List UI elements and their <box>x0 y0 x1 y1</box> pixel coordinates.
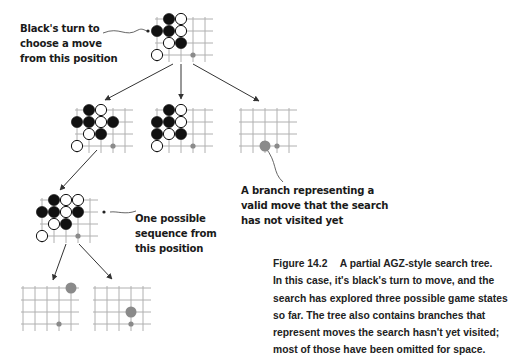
annotation-line: One possible <box>135 211 217 226</box>
white-stone <box>175 25 186 36</box>
black-stone <box>83 104 94 115</box>
white-stone <box>48 218 59 229</box>
go-board-grandchild <box>36 194 98 243</box>
unvisited-branch-annotation: A branch representing a valid move that … <box>241 183 388 228</box>
white-stone <box>95 116 106 127</box>
tree-edge-arrow <box>60 150 97 190</box>
annotation-line: has not visited yet <box>241 213 388 228</box>
figure-number: Figure 14.2 <box>273 258 327 269</box>
callout-leader-line <box>265 147 283 182</box>
annotation-line: sequence from <box>135 226 217 241</box>
black-stone <box>151 116 162 127</box>
go-board-leaf-right <box>93 286 151 331</box>
candidate-move-marker <box>190 52 195 57</box>
black-stone <box>71 116 82 127</box>
candidate-move-marker <box>128 321 133 326</box>
annotation-line: valid move that the search <box>241 198 388 213</box>
caption-line: represent moves the search hasn't yet vi… <box>273 324 508 341</box>
sequence-annotation: One possible sequence from this position <box>135 211 217 256</box>
white-stone <box>36 230 47 241</box>
go-board-child-middle <box>151 104 213 153</box>
tree-edge-arrow <box>79 244 112 279</box>
black-stone <box>48 206 59 217</box>
white-stone <box>72 194 83 205</box>
go-board-root <box>151 13 213 62</box>
white-stone <box>60 194 71 205</box>
white-stone <box>151 140 162 151</box>
white-stone <box>95 104 106 115</box>
candidate-move-marker-large <box>126 307 137 318</box>
black-stone <box>107 116 118 127</box>
annotation-line: Black's turn to <box>20 21 117 36</box>
candidate-move-marker <box>110 143 115 148</box>
candidate-move-marker-large <box>66 283 77 294</box>
black-stone <box>95 128 106 139</box>
black-stone <box>175 128 186 139</box>
candidate-move-marker <box>56 321 61 326</box>
callout-arrowhead-icon <box>146 29 149 32</box>
black-stone <box>151 128 162 139</box>
go-board-child-left <box>71 104 133 153</box>
figure-title: A partial AGZ-style search tree. <box>340 258 493 269</box>
caption-line: most of those have been omitted for spac… <box>273 341 508 357</box>
caption-line: so far. The tree also contains branches … <box>273 307 508 324</box>
white-stone <box>163 37 174 48</box>
caption-line: search has explored three possible game … <box>273 290 508 307</box>
candidate-move-marker <box>75 233 80 238</box>
white-stone <box>175 116 186 127</box>
white-stone <box>163 128 174 139</box>
white-stone <box>71 140 82 151</box>
figure-caption: Figure 14.2 A partial AGZ-style search t… <box>273 255 508 357</box>
black-stone <box>163 25 174 36</box>
caption-title-line: Figure 14.2 A partial AGZ-style search t… <box>273 255 508 272</box>
black-stone <box>48 194 59 205</box>
callout-leader-line <box>110 211 136 213</box>
tree-edge-arrow <box>53 244 66 280</box>
annotation-line: this position <box>135 241 217 256</box>
annotation-line: A branch representing a <box>241 183 388 198</box>
black-stone <box>163 13 174 24</box>
caption-line: In this case, it's black's turn to move,… <box>273 272 508 289</box>
candidate-move-marker <box>274 143 279 148</box>
white-stone <box>60 206 71 217</box>
white-stone <box>151 49 162 60</box>
tree-edge-arrow <box>105 64 173 100</box>
tree-edge-arrow <box>193 64 259 101</box>
candidate-move-marker <box>190 143 195 148</box>
black-stone <box>163 104 174 115</box>
candidate-move-marker-large <box>260 141 271 152</box>
black-stone <box>72 206 83 217</box>
black-stone <box>151 25 162 36</box>
root-annotation: Black's turn to choose a move from this … <box>20 21 117 66</box>
annotation-line: choose a move <box>20 36 117 51</box>
white-stone <box>175 13 186 24</box>
black-stone <box>163 116 174 127</box>
white-stone <box>83 128 94 139</box>
black-stone <box>60 218 71 229</box>
annotation-line: from this position <box>20 51 117 66</box>
white-stone <box>175 104 186 115</box>
callout-arrowhead-icon <box>102 210 105 213</box>
black-stone <box>83 116 94 127</box>
black-stone <box>36 206 47 217</box>
go-board-child-unvisited <box>239 108 297 153</box>
black-stone <box>175 37 186 48</box>
go-board-leaf-left <box>21 283 79 332</box>
